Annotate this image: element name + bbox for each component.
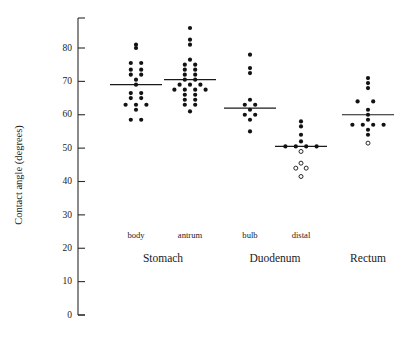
data-point <box>248 66 252 70</box>
y-axis-title-group: Contact angle (degrees) <box>13 125 25 225</box>
data-point <box>299 149 303 153</box>
data-point <box>248 118 252 122</box>
data-point <box>129 96 133 100</box>
y-tick-label-80: 80 <box>63 43 73 53</box>
data-point <box>188 43 192 47</box>
subgroup-label-bulb: bulb <box>242 230 257 240</box>
y-axis <box>78 18 85 315</box>
data-point <box>172 88 176 92</box>
data-point <box>248 129 252 133</box>
y-tick-label-70: 70 <box>63 76 73 86</box>
data-point <box>253 103 257 107</box>
plot-area: 01020304050607080 Contact angle (degrees… <box>0 0 410 346</box>
data-point <box>366 118 370 122</box>
data-point <box>129 73 133 77</box>
data-point <box>193 63 197 67</box>
data-point <box>193 103 197 107</box>
data-point <box>371 99 375 103</box>
data-point <box>366 108 370 112</box>
data-point <box>366 81 370 85</box>
region-labels: StomachDuodenumRectum <box>143 252 386 264</box>
data-point <box>129 61 133 65</box>
y-tick-label-40: 40 <box>63 176 73 186</box>
data-point <box>299 133 303 137</box>
data-point <box>183 98 187 102</box>
data-point <box>178 83 182 87</box>
data-point <box>183 68 187 72</box>
data-point <box>134 78 138 82</box>
data-point <box>134 46 138 50</box>
data-point <box>193 68 197 72</box>
data-point <box>299 124 303 128</box>
series-antrum <box>164 26 216 114</box>
y-axis-ticks: 01020304050607080 <box>63 43 86 320</box>
data-point <box>129 68 133 72</box>
data-point <box>193 98 197 102</box>
data-point <box>361 123 365 127</box>
data-point <box>129 118 133 122</box>
data-point <box>134 83 138 87</box>
data-point <box>299 119 303 123</box>
data-point <box>243 103 247 107</box>
data-point <box>134 108 138 112</box>
data-point <box>366 76 370 80</box>
data-point <box>366 128 370 132</box>
series-distal <box>275 119 327 178</box>
data-point <box>134 103 138 107</box>
data-point <box>193 78 197 82</box>
series-bulb <box>224 53 276 134</box>
data-point <box>204 88 208 92</box>
data-point <box>299 139 303 143</box>
scatter-plot-figure: 01020304050607080 Contact angle (degrees… <box>0 0 410 346</box>
data-point <box>188 26 192 30</box>
data-point <box>366 86 370 90</box>
data-point <box>294 166 298 170</box>
region-label-duodenum: Duodenum <box>249 252 300 264</box>
data-point <box>183 93 187 97</box>
chart-svg: 01020304050607080 Contact angle (degrees… <box>0 0 410 346</box>
data-point <box>144 103 148 107</box>
data-point <box>183 63 187 67</box>
data-point <box>304 144 308 148</box>
data-point <box>139 73 143 77</box>
data-point <box>315 144 319 148</box>
data-point <box>248 71 252 75</box>
data-point <box>139 91 143 95</box>
data-point <box>124 103 128 107</box>
data-point <box>299 174 303 178</box>
data-point <box>248 98 252 102</box>
region-label-stomach: Stomach <box>143 252 183 264</box>
data-point <box>183 103 187 107</box>
series-rectum <box>342 76 394 145</box>
data-point <box>183 78 187 82</box>
y-tick-label-0: 0 <box>67 310 72 320</box>
data-point <box>366 141 370 145</box>
subgroup-labels: bodyantrumbulbdistal <box>127 230 311 240</box>
data-point <box>299 161 303 165</box>
data-point <box>188 38 192 42</box>
y-tick-label-10: 10 <box>63 276 73 286</box>
data-point <box>139 68 143 72</box>
data-point <box>356 99 360 103</box>
subgroup-label-antrum: antrum <box>178 230 203 240</box>
y-tick-label-60: 60 <box>63 109 73 119</box>
data-point <box>253 113 257 117</box>
subgroup-label-body: body <box>127 230 145 240</box>
data-point <box>350 123 354 127</box>
data-point <box>183 88 187 92</box>
data-point <box>283 144 287 148</box>
data-point <box>188 83 192 87</box>
data-point <box>193 88 197 92</box>
data-point <box>193 73 197 77</box>
data-point <box>193 93 197 97</box>
data-point <box>382 123 386 127</box>
data-point <box>371 123 375 127</box>
data-point <box>243 113 247 117</box>
data-point <box>304 166 308 170</box>
data-point <box>139 96 143 100</box>
y-tick-label-30: 30 <box>63 210 73 220</box>
y-tick-label-50: 50 <box>63 143 73 153</box>
data-point <box>198 83 202 87</box>
data-point <box>366 113 370 117</box>
y-tick-label-20: 20 <box>63 243 73 253</box>
